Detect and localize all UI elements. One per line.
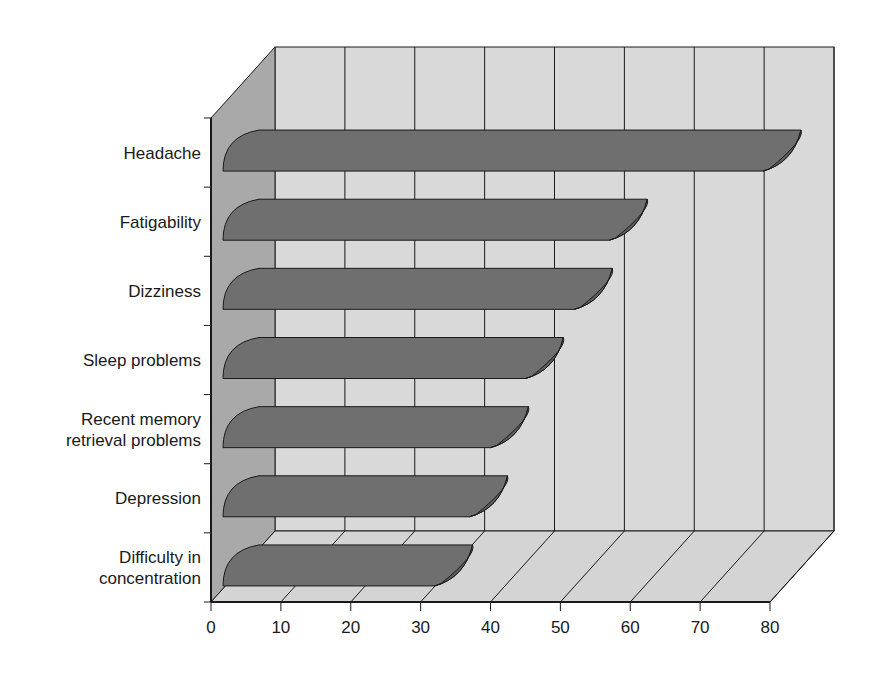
category-label: Dizziness — [128, 282, 201, 301]
bar — [223, 407, 529, 448]
x-tick-label: 60 — [621, 618, 640, 637]
x-tick-label: 80 — [761, 618, 780, 637]
category-label: Difficulty in — [119, 548, 201, 567]
category-label: Headache — [123, 144, 201, 163]
x-tick-label: 70 — [691, 618, 710, 637]
bar — [223, 268, 612, 309]
bar — [223, 130, 801, 171]
bar — [223, 545, 473, 586]
category-label: concentration — [99, 569, 201, 588]
x-tick-label: 30 — [411, 618, 430, 637]
bar — [223, 338, 563, 379]
category-label: retrieval problems — [66, 431, 201, 450]
bar — [223, 199, 647, 240]
category-label: Fatigability — [120, 213, 202, 232]
category-label: Recent memory — [81, 410, 201, 429]
chart-root: 01020304050607080HeadacheFatigabilityDiz… — [0, 0, 884, 678]
x-tick-label: 0 — [206, 618, 215, 637]
bar-chart: 01020304050607080HeadacheFatigabilityDiz… — [0, 0, 884, 678]
x-tick-label: 20 — [341, 618, 360, 637]
x-tick-label: 50 — [551, 618, 570, 637]
bar — [223, 476, 508, 517]
x-tick-label: 40 — [481, 618, 500, 637]
category-label: Depression — [115, 489, 201, 508]
category-label: Sleep problems — [83, 351, 201, 370]
x-tick-label: 10 — [271, 618, 290, 637]
